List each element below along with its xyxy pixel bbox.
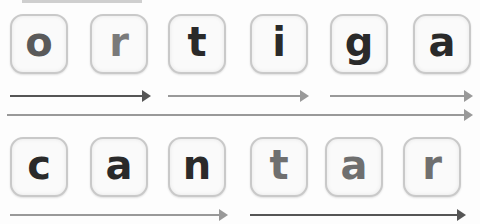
letter-glyph: r	[109, 22, 129, 62]
letter-glyph: a	[106, 145, 133, 185]
letter-tile[interactable]: a	[325, 137, 383, 197]
arrow-head-icon	[464, 90, 473, 102]
letter-tile[interactable]: a	[90, 137, 148, 197]
arrow-line	[10, 95, 145, 97]
arrow-head-icon	[219, 209, 228, 221]
arrow-line	[7, 114, 467, 116]
arrow-line	[250, 214, 460, 216]
arrow-line	[10, 214, 222, 216]
letter-tile[interactable]: a	[413, 14, 471, 74]
letter-glyph: a	[341, 145, 368, 185]
letter-glyph: r	[422, 145, 442, 185]
letter-tile[interactable]: n	[168, 137, 226, 197]
top-edge-bar	[22, 0, 142, 3]
letter-tile[interactable]: t	[168, 14, 226, 74]
letter-glyph: t	[187, 22, 206, 62]
arrow-line	[168, 95, 303, 97]
arrow-head-icon	[142, 90, 151, 102]
letter-glyph: o	[25, 22, 52, 62]
letter-tile[interactable]: o	[10, 14, 68, 74]
arrow-head-icon	[300, 90, 309, 102]
letter-tile[interactable]: r	[403, 137, 461, 197]
letter-tile[interactable]: r	[90, 14, 148, 74]
letter-glyph: i	[272, 22, 286, 62]
letter-glyph: n	[183, 145, 211, 185]
letter-glyph: c	[27, 145, 51, 185]
letter-tile[interactable]: g	[330, 14, 388, 74]
arrow-line	[330, 95, 467, 97]
arrow-head-icon	[464, 109, 473, 121]
letter-tile[interactable]: i	[250, 14, 308, 74]
letter-glyph: a	[429, 22, 456, 62]
letter-tile[interactable]: c	[10, 137, 68, 197]
arrow-head-icon	[457, 209, 466, 221]
letter-glyph: t	[269, 145, 288, 185]
letter-glyph: g	[345, 22, 374, 62]
letter-tile[interactable]: t	[250, 137, 308, 197]
